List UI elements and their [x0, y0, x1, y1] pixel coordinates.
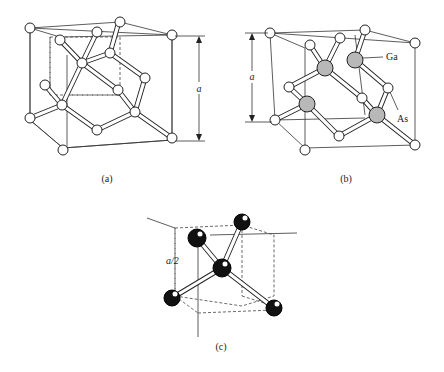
- ga-atom: [317, 60, 333, 76]
- caption-b: (b): [340, 173, 352, 185]
- bonds: [30, 25, 172, 138]
- panel-b-zincblende-lattice: Ga As a (b): [245, 25, 420, 185]
- bonds: [275, 30, 415, 145]
- ga-atom: [347, 52, 363, 68]
- atoms: [25, 17, 177, 155]
- label-as: As: [397, 113, 408, 124]
- panel-a-diamond-lattice: a (a): [25, 17, 205, 185]
- crystal-structure-figure: a (a): [0, 0, 444, 372]
- label-ga: Ga: [386, 51, 398, 62]
- atoms: [265, 25, 420, 155]
- caption-c: (c): [215, 341, 226, 353]
- ga-atom: [369, 107, 385, 123]
- ga-atom: [299, 96, 315, 112]
- dimension-label-a: a: [197, 83, 202, 94]
- dimension-label-a: a: [250, 71, 255, 82]
- panel-c-tetrahedral-bond: a/2 (c): [147, 214, 297, 353]
- caption-a: (a): [101, 173, 112, 185]
- dimension-label-a-half: a/2: [166, 255, 179, 266]
